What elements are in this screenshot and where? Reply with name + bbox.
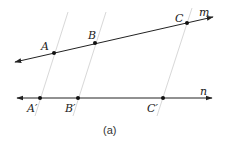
point-m-0 (52, 51, 56, 55)
point-label-n-2: C′ (147, 102, 158, 115)
point-label-m-1: B (87, 29, 96, 42)
transversal-lines (35, 8, 192, 116)
parallel-projection-diagram: m n ABC A′B′C′ (a) (0, 0, 245, 145)
points-on-m: ABC (40, 12, 189, 55)
point-label-n-1: B′ (64, 102, 76, 115)
point-label-m-2: C (175, 12, 184, 25)
line-n-label: n (200, 85, 207, 98)
transversal-b (73, 12, 106, 116)
point-label-m-0: A (40, 40, 49, 53)
line-m-label: m (199, 6, 209, 19)
point-label-n-0: A′ (26, 102, 38, 115)
point-n-2 (161, 96, 165, 100)
point-n-0 (38, 96, 42, 100)
transversal-a (35, 12, 68, 116)
points-on-n: A′B′C′ (26, 96, 165, 115)
figure-caption: (a) (103, 124, 116, 136)
point-n-1 (76, 96, 80, 100)
point-m-2 (185, 21, 189, 25)
